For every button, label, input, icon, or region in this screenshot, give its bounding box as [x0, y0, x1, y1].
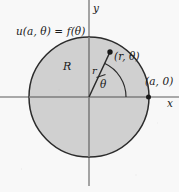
- interior-point-label: (r, θ): [114, 51, 140, 62]
- x-axis-label: x: [167, 98, 173, 109]
- angle-label: θ: [100, 79, 106, 90]
- boundary-condition-label: u(a, θ) = f(θ): [16, 26, 86, 37]
- radius-label: r: [92, 66, 97, 76]
- interior-point-dot: [107, 49, 112, 54]
- polar-disk-diagram: u(a, θ) = f(θ) y x R r θ (r, θ) (a, 0): [0, 0, 179, 192]
- region-label: R: [63, 61, 71, 72]
- boundary-point-dot: [146, 95, 151, 100]
- boundary-point-label: (a, 0): [145, 76, 173, 87]
- y-axis-label: y: [93, 3, 99, 14]
